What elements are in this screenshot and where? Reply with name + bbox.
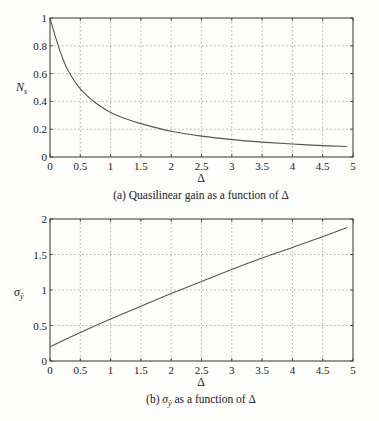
plot-a-caption: (a) Quasilinear gain as a function of Δ [113,189,289,202]
x-tick-label: 2 [168,364,174,376]
data-line [50,18,347,147]
plot-b-caption: (b) σŷ as a function of Δ [146,393,256,408]
x-tick-label: 4.5 [316,160,330,172]
x-tick-label: 4.5 [316,364,330,376]
plot-a-ylabel: Ns [15,80,27,96]
y-tick-label: 0.6 [33,68,47,80]
plot-a-xlabel: Δ [197,171,205,185]
x-tick-label: 3.5 [255,364,269,376]
plot-b-sigma: 00.511.522.533.544.5500.511.52 [33,213,356,376]
x-tick-label: 0 [47,160,53,172]
y-tick-label: 0 [42,151,48,163]
x-tick-label: 5 [350,364,356,376]
x-tick-label: 1.5 [134,160,148,172]
y-tick-label: 0.8 [33,40,47,52]
y-tick-label: 0 [42,355,48,367]
x-tick-label: 3.5 [255,160,269,172]
x-tick-label: 4 [290,160,296,172]
x-tick-label: 3 [229,364,235,376]
x-tick-label: 5 [350,160,356,172]
plot-b-xlabel: Δ [197,375,205,389]
y-tick-label: 0.4 [33,95,47,107]
x-tick-label: 2 [168,160,174,172]
x-tick-label: 1 [108,160,114,172]
y-tick-label: 2 [42,213,48,225]
x-tick-label: 1.5 [134,364,148,376]
x-tick-label: 4 [290,364,296,376]
x-tick-label: 1 [108,364,114,376]
x-tick-label: 0.5 [73,160,87,172]
x-tick-label: 3 [229,160,235,172]
y-tick-label: 1 [42,284,48,296]
y-tick-label: 1.5 [33,249,47,261]
x-tick-label: 0.5 [73,364,87,376]
x-tick-label: 0 [47,364,53,376]
plot-b-ylabel: σŷ [14,285,24,301]
y-tick-label: 1 [42,12,48,24]
data-line [50,228,347,347]
y-tick-label: 0.5 [33,320,47,332]
figure: 00.511.522.533.544.5500.20.40.60.81 00.5… [0,0,379,421]
y-tick-label: 0.2 [33,123,47,135]
plot-a-quasilinear-gain: 00.511.522.533.544.5500.20.40.60.81 [33,12,356,172]
